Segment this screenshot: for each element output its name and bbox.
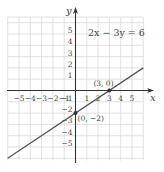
y-tick-label: −1: [61, 94, 72, 103]
y-tick-label: −4: [61, 128, 72, 137]
x-tick-label: −3: [36, 94, 47, 103]
x-tick-label: 3: [107, 94, 112, 103]
point-label: (3, 0): [93, 79, 113, 88]
y-tick-label: 2: [68, 60, 73, 69]
x-tick-label: 5: [130, 94, 135, 103]
y-tick-label: 5: [68, 26, 73, 35]
x-tick-label: −4: [25, 94, 36, 103]
y-axis-label: y: [65, 5, 72, 16]
y-tick-label: 3: [68, 49, 73, 58]
tick-labels: −5−4−3−2−11234554321−1−2−3−4−5: [13, 26, 134, 148]
y-tick-label: 1: [68, 71, 73, 80]
x-tick-label: −5: [13, 94, 24, 103]
x-axis-label: x: [150, 92, 156, 103]
x-tick-label: −2: [47, 94, 58, 103]
coordinate-plane-chart: −5−4−3−2−11234554321−1−2−3−4−5 x y 2x − …: [0, 0, 164, 172]
point-label: (0, −2): [78, 114, 105, 123]
y-tick-label: −5: [61, 139, 72, 148]
equation-label: 2x − 3y = 6: [88, 27, 145, 38]
x-tick-label: 4: [118, 94, 123, 103]
y-tick-label: 4: [68, 37, 73, 46]
point-marker: [107, 89, 111, 93]
y-tick-label: −2: [61, 105, 72, 114]
x-tick-label: 1: [84, 94, 89, 103]
